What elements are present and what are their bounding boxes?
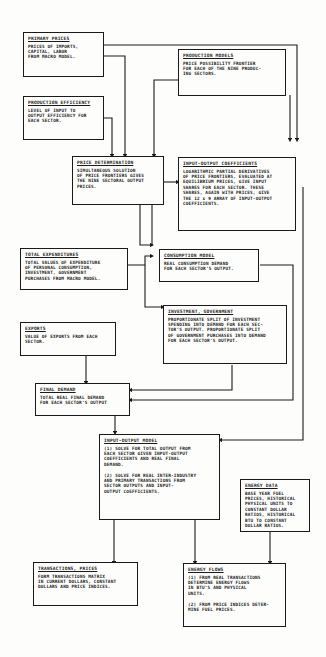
box-title: ENERGY DATA — [245, 483, 305, 488]
box-price-determination: PRICE DETERMINATION SIMULTANEOUS SOLUTIO… — [72, 156, 164, 205]
box-body: REAL CONSUMPTION DEMAND FOR EACH SECTOR'… — [164, 261, 254, 272]
box-body: PROPORTIONATE SPLIT OF INVESTMENT SPENDI… — [168, 317, 282, 344]
box-production-efficiency: PRODUCTION EFFICIENCY LEVEL OF INPUT TO … — [23, 96, 104, 140]
box-body: PRICES OF IMPORTS, CAPITAL, LABOR FROM M… — [28, 44, 99, 60]
box-title: TRANSACTIONS, PRICES — [38, 566, 133, 571]
box-title: INVESTMENT, GOVERNMENT — [168, 309, 282, 314]
box-body: TOTAL VALUES OF EXPENDITURE OF PERSONAL … — [25, 260, 123, 282]
box-title: PRODUCTION EFFICIENCY — [28, 100, 99, 105]
box-body: PRICE POSSIBILITY FRONTIER FOR EACH OF T… — [183, 61, 281, 77]
box-title: PRIMARY PRICES — [28, 36, 99, 41]
box-title: FINAL DEMAND — [40, 387, 125, 392]
box-title: PRODUCTION MODELS — [183, 53, 281, 58]
box-title: EXPORTS — [25, 326, 111, 331]
box-body: LEVEL OF INPUT TO OUTPUT EFFICIENCY FOR … — [28, 108, 99, 124]
box-body: TOTAL REAL FINAL DEMAND FOR EACH SECTOR'… — [40, 395, 125, 406]
box-title: ENERGY FLOWS — [188, 567, 281, 572]
box-consumption-model: CONSUMPTION MODEL REAL CONSUMPTION DEMAN… — [159, 249, 259, 282]
box-transactions-prices: TRANSACTIONS, PRICES FORM TRANSACTIONS M… — [33, 562, 138, 606]
box-energy-flows: ENERGY FLOWS (1) FROM REAL TRANSACTIONS … — [183, 563, 286, 627]
box-energy-data: ENERGY DATA BASE YEAR FUEL PRICES, HISTO… — [240, 479, 310, 532]
box-production-models: PRODUCTION MODELS PRICE POSSIBILITY FRON… — [178, 49, 286, 96]
box-body: FORM TRANSACTIONS MATRIX IN CURRENT DOLL… — [38, 574, 133, 590]
box-body: BASE YEAR FUEL PRICES, HISTORICAL PHYSIC… — [245, 491, 305, 529]
box-input-output-model: INPUT-OUTPUT MODEL (1) SOLVE FOR TOTAL O… — [99, 434, 220, 520]
box-body: (1) SOLVE FOR TOTAL OUTPUT FROM EACH SEC… — [104, 446, 215, 495]
box-body: LOGARITHMIC PARTIAL DERIVATIVES OF PRICE… — [183, 169, 291, 207]
box-total-expenditures: TOTAL EXPENDITURES TOTAL VALUES OF EXPEN… — [20, 248, 128, 290]
box-exports: EXPORTS VALUE OF EXPORTS FROM EACH SECTO… — [20, 322, 116, 356]
box-body: VALUE OF EXPORTS FROM EACH SECTOR. — [25, 334, 111, 345]
box-investment-government: INVESTMENT, GOVERNMENT PROPORTIONATE SPL… — [163, 305, 287, 364]
box-title: CONSUMPTION MODEL — [164, 253, 254, 258]
box-title: TOTAL EXPENDITURES — [25, 252, 123, 257]
box-title: PRICE DETERMINATION — [77, 160, 159, 165]
box-title: INPUT-OUTPUT MODEL — [104, 438, 215, 443]
box-input-output-coefficients: INPUT-OUTPUT COEFFICIENTS LOGARITHMIC PA… — [178, 157, 296, 231]
box-primary-prices: PRIMARY PRICES PRICES OF IMPORTS, CAPITA… — [23, 32, 104, 77]
box-final-demand: FINAL DEMAND TOTAL REAL FINAL DEMAND FOR… — [35, 383, 130, 416]
box-body: SIMULTANEOUS SOLUTION OF PRICE FRONTIERS… — [77, 168, 159, 190]
box-body: (1) FROM REAL TRANSACTIONS DETERMINE ENE… — [188, 575, 281, 613]
box-title: INPUT-OUTPUT COEFFICIENTS — [183, 161, 291, 166]
